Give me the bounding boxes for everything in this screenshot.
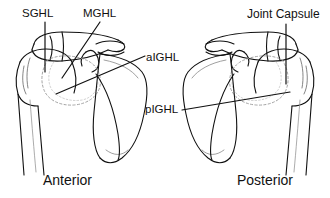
label-joint-capsule: Joint Capsule (247, 8, 320, 20)
anterior-illustration (16, 32, 147, 175)
label-mghl: MGHL (83, 8, 116, 20)
shoulder-line-art (0, 0, 330, 198)
posterior-illustration (183, 32, 314, 175)
label-pighl: pIGHL (145, 104, 178, 116)
label-aighl: aIGHL (146, 52, 179, 64)
label-sghl: SGHL (22, 8, 53, 20)
leader-aighl (56, 56, 145, 94)
leader-mghl (62, 22, 100, 78)
caption-posterior: Posterior (237, 173, 293, 187)
anatomy-figure: SGHL MGHL aIGHL pIGHL Joint Capsule Ante… (0, 0, 330, 198)
caption-anterior: Anterior (43, 173, 92, 187)
